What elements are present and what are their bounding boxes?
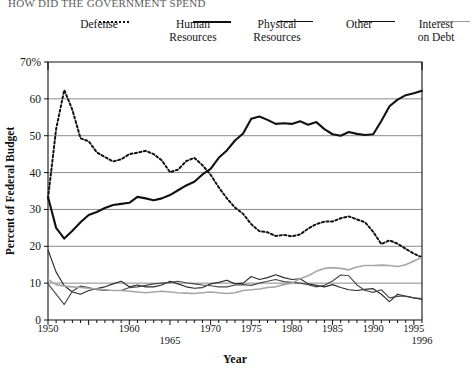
- gridlines: [48, 99, 422, 283]
- x-tick-label: 1990: [363, 323, 384, 334]
- x-tick-label: 1985: [322, 323, 343, 334]
- x-axis-labels: 1950196019651970197519801985199019951996: [38, 323, 433, 346]
- x-tick-label: 1965: [159, 335, 180, 346]
- y-axis-title: Percent of Federal Budget: [4, 127, 17, 256]
- x-tick-label: 1950: [38, 323, 59, 334]
- y-tick-label: 20: [30, 240, 42, 252]
- x-tick-label: 1996: [412, 335, 433, 346]
- y-tick-label: 50: [30, 130, 42, 142]
- series-line-interest-on-debt: [48, 257, 422, 293]
- series-line-physical-resources: [48, 250, 422, 302]
- data-series: [48, 90, 422, 305]
- x-tick-label: 1970: [200, 323, 221, 334]
- x-axis-title: Year: [223, 352, 248, 366]
- y-tick-label: 70%: [20, 56, 42, 68]
- x-tick-label: 1975: [241, 323, 262, 334]
- x-tick-label: 1980: [281, 323, 302, 334]
- y-axis-labels: 010203040506070%: [20, 56, 42, 326]
- y-tick-label: 10: [30, 277, 42, 289]
- series-line-human-resources: [48, 91, 422, 239]
- axis-frame: [48, 62, 422, 320]
- x-tick-label: 1960: [119, 323, 140, 334]
- y-tick-label: 60: [30, 93, 42, 105]
- y-tick-label: 40: [30, 167, 42, 179]
- y-axis-ticks: [44, 62, 48, 320]
- y-tick-label: 30: [30, 203, 42, 215]
- series-line-defense: [48, 90, 422, 257]
- x-tick-label: 1995: [403, 323, 424, 334]
